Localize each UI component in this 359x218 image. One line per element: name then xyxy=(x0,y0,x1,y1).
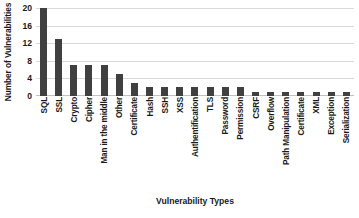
bar-cell xyxy=(339,8,354,96)
x-axis-tick-cell: XSS xyxy=(172,97,187,185)
x-axis-tick-cell: Permission xyxy=(233,97,248,185)
x-axis-tick-label: XSS xyxy=(175,97,184,113)
bar xyxy=(282,92,289,96)
bar xyxy=(146,87,153,96)
bar xyxy=(222,87,229,96)
x-axis-tick-label: CSRF xyxy=(251,97,260,119)
x-axis-tick-label: Password xyxy=(221,97,230,134)
x-axis-tick-label: SSH xyxy=(160,97,169,113)
x-axis-tick-label: Cipher xyxy=(84,97,93,122)
bar-cell xyxy=(51,8,66,96)
plot-area xyxy=(36,8,354,96)
y-axis-tick-16: 16 xyxy=(22,21,32,31)
x-axis-tick-cell: SSH xyxy=(157,97,172,185)
x-axis-tick-cell: Exception xyxy=(324,97,339,185)
y-axis-tick-labels: 201612840 xyxy=(16,8,34,96)
bar xyxy=(237,87,244,96)
bar xyxy=(297,92,304,96)
bar-series xyxy=(36,8,354,96)
x-axis-tick-cell: TLS xyxy=(203,97,218,185)
bar-cell xyxy=(293,8,308,96)
bar-cell xyxy=(97,8,112,96)
y-axis-tick-8: 8 xyxy=(27,56,32,66)
x-axis-tick-label: XML xyxy=(312,97,321,114)
bar xyxy=(252,92,259,96)
x-axis-tick-label: Crypto xyxy=(69,97,78,122)
x-axis-tick-label: Exception xyxy=(327,97,336,135)
bar xyxy=(343,92,350,96)
bar-cell xyxy=(324,8,339,96)
bar-cell xyxy=(309,8,324,96)
x-axis-tick-cell: Other xyxy=(112,97,127,185)
x-axis-tick-label: Certificate xyxy=(296,97,305,135)
x-axis-tick-cell: Authentification xyxy=(187,97,202,185)
bar-cell xyxy=(142,8,157,96)
bar xyxy=(313,92,320,96)
bar-cell xyxy=(263,8,278,96)
y-axis-title: Number of Vulnerabilities xyxy=(0,0,16,104)
bar xyxy=(55,39,62,96)
x-axis-tick-labels: SQLSSLCryptoCipherMan in the middleOther… xyxy=(36,97,354,185)
y-axis-tick-4: 4 xyxy=(27,73,32,83)
x-axis-tick-cell: Cipher xyxy=(81,97,96,185)
x-axis-tick-label: Authentification xyxy=(190,97,199,157)
bar-cell xyxy=(218,8,233,96)
bar xyxy=(101,65,108,96)
bar xyxy=(85,65,92,96)
bar xyxy=(267,92,274,96)
bar xyxy=(131,83,138,96)
x-axis-tick-label: Path Manipulation xyxy=(281,97,290,165)
bar xyxy=(191,87,198,96)
x-axis-tick-cell: Hash xyxy=(142,97,157,185)
x-axis-tick-label: SSL xyxy=(54,97,63,112)
x-axis-tick-label: Certificate xyxy=(130,97,139,135)
x-axis-tick-label: Overflow xyxy=(266,97,275,131)
y-axis-tick-12: 12 xyxy=(22,38,32,48)
x-axis-tick-cell: Man in the middle xyxy=(97,97,112,185)
x-axis-tick-label: TLS xyxy=(206,97,215,112)
bar-cell xyxy=(203,8,218,96)
bar xyxy=(116,74,123,96)
bar xyxy=(40,8,47,96)
x-axis-tick-cell: CSRF xyxy=(248,97,263,185)
y-axis-tick-20: 20 xyxy=(22,3,32,13)
bar-cell xyxy=(36,8,51,96)
x-axis-tick-cell: Certificate xyxy=(293,97,308,185)
x-axis-tick-cell: Crypto xyxy=(66,97,81,185)
bar-cell xyxy=(187,8,202,96)
bar-cell xyxy=(112,8,127,96)
x-axis-tick-cell: Path Manipulation xyxy=(278,97,293,185)
bar-chart-figure: Number of Vulnerabilities 201612840 SQLS… xyxy=(0,0,359,218)
x-axis-tick-label: Permission xyxy=(236,97,245,140)
x-axis-tick-label: Man in the middle xyxy=(100,97,109,164)
bar xyxy=(328,92,335,96)
x-axis-tick-label: SQL xyxy=(39,97,48,113)
bar-cell xyxy=(248,8,263,96)
bar-cell xyxy=(172,8,187,96)
bar xyxy=(161,87,168,96)
bar-cell xyxy=(157,8,172,96)
x-axis-tick-cell: Serialization xyxy=(339,97,354,185)
bar-cell xyxy=(81,8,96,96)
x-axis-title: Vulnerability Types xyxy=(36,196,354,206)
x-axis-tick-cell: Overflow xyxy=(263,97,278,185)
x-axis-tick-cell: SQL xyxy=(36,97,51,185)
y-axis-title-label: Number of Vulnerabilities xyxy=(3,3,13,102)
bar xyxy=(70,65,77,96)
x-axis-tick-label: Serialization xyxy=(342,97,351,143)
x-axis-tick-cell: Password xyxy=(218,97,233,185)
bar xyxy=(207,87,214,96)
bar-cell xyxy=(127,8,142,96)
y-axis-tick-0: 0 xyxy=(27,91,32,101)
x-axis-tick-cell: SSL xyxy=(51,97,66,185)
bar xyxy=(176,87,183,96)
x-axis-tick-label: Hash xyxy=(145,97,154,116)
bar-cell xyxy=(278,8,293,96)
x-axis-tick-cell: XML xyxy=(309,97,324,185)
bar-cell xyxy=(233,8,248,96)
bar-cell xyxy=(66,8,81,96)
x-axis-tick-label: Other xyxy=(115,97,124,118)
x-axis-tick-cell: Certificate xyxy=(127,97,142,185)
